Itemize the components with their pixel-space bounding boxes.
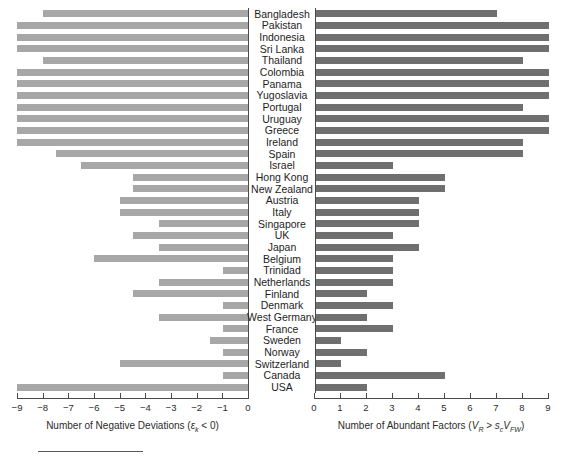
left-bar (56, 150, 249, 157)
category-label: Ireland (249, 136, 315, 148)
left-bar-row (0, 218, 249, 230)
right-bar-row (315, 358, 567, 370)
right-bar-row (315, 335, 567, 347)
right-bar-row (315, 300, 567, 312)
chart-panels: BangladeshPakistanIndonesiaSri LankaThai… (0, 8, 567, 393)
category-label: USA (249, 382, 315, 394)
left-bar-row (0, 55, 249, 67)
category-label: Italy (249, 206, 315, 218)
left-bar (210, 337, 249, 344)
right-bar-row (315, 66, 567, 78)
right-bar (315, 104, 523, 111)
category-label: Pakistan (249, 20, 315, 32)
axis-tick (120, 393, 121, 399)
left-bar (17, 45, 249, 52)
axis-tick-label: −6 (89, 402, 100, 413)
left-bar-row (0, 323, 249, 335)
right-bar (315, 69, 549, 76)
axis-tick-label: −1 (217, 402, 228, 413)
left-bar (223, 302, 249, 309)
left-bar-row (0, 78, 249, 90)
right-x-axis: 0123456789 Number of Abundant Factors (V… (314, 393, 548, 459)
axis-tick-label: 7 (493, 402, 498, 413)
right-bar (315, 92, 549, 99)
right-axis-vfw-sub: FW (510, 426, 521, 433)
axis-tick-label: 9 (545, 402, 550, 413)
right-bar-row (315, 20, 567, 32)
left-bar (17, 127, 249, 134)
right-bar-row (315, 90, 567, 102)
axis-tick-label: 0 (245, 402, 250, 413)
axis-tick-label: 4 (415, 402, 420, 413)
right-bar (315, 185, 445, 192)
right-bar-row (315, 160, 567, 172)
left-bar-row (0, 66, 249, 78)
right-axis-line (314, 398, 548, 399)
right-bar (315, 22, 549, 29)
footnote-rule (38, 451, 143, 452)
right-axis-gt: > (483, 420, 494, 431)
right-bar-row (315, 171, 567, 183)
right-bar (315, 209, 419, 216)
category-label: Austria (249, 195, 315, 207)
axis-tick (470, 393, 471, 399)
left-bar (43, 10, 249, 17)
right-bar (315, 290, 367, 297)
right-bar (315, 57, 523, 64)
left-bar (120, 209, 249, 216)
left-bar-row (0, 113, 249, 125)
axis-tick-label: 0 (311, 402, 316, 413)
category-label: Belgium (249, 253, 315, 265)
right-bar (315, 80, 549, 87)
right-bar (315, 115, 549, 122)
right-axis-vfw: V (503, 420, 510, 431)
left-bar (120, 197, 249, 204)
right-bar-row (315, 55, 567, 67)
right-bar (315, 279, 393, 286)
axis-tick (340, 393, 341, 399)
right-bar-row (315, 311, 567, 323)
category-label: Japan (249, 241, 315, 253)
axis-tick (314, 393, 315, 399)
left-bar-row (0, 253, 249, 265)
right-panel (315, 8, 567, 393)
category-label: Switzerland (249, 358, 315, 370)
axis-tick-label: −2 (191, 402, 202, 413)
right-bar-row (315, 136, 567, 148)
axis-tick-label: −8 (37, 402, 48, 413)
left-bar-row (0, 382, 249, 394)
left-bar-row (0, 160, 249, 172)
left-bar (159, 220, 249, 227)
category-label: Bangladesh (249, 8, 315, 20)
axis-tick-label: −9 (12, 402, 23, 413)
left-bar-row (0, 171, 249, 183)
right-bar (315, 232, 393, 239)
right-bar (315, 255, 393, 262)
category-label-column: BangladeshPakistanIndonesiaSri LankaThai… (249, 8, 315, 393)
left-bar (159, 314, 249, 321)
left-bar-row (0, 300, 249, 312)
right-axis-title-suffix: ) (521, 420, 524, 431)
right-bar (315, 337, 341, 344)
category-label: Greece (249, 125, 315, 137)
category-label: Sri Lanka (249, 43, 315, 55)
axis-tick (496, 393, 497, 399)
right-bar (315, 174, 445, 181)
left-bar (81, 162, 249, 169)
right-bar-row (315, 370, 567, 382)
left-bar-row (0, 183, 249, 195)
left-bar-row (0, 265, 249, 277)
axis-tick-label: 8 (519, 402, 524, 413)
right-bar (315, 45, 549, 52)
left-bar-row (0, 230, 249, 242)
axis-tick (548, 393, 549, 399)
left-bar (94, 255, 249, 262)
left-bar-row (0, 206, 249, 218)
axis-tick-label: 3 (389, 402, 394, 413)
left-bar-row (0, 8, 249, 20)
right-bar-row (315, 288, 567, 300)
axis-tick (145, 393, 146, 399)
left-bar (17, 139, 249, 146)
left-bar-row (0, 148, 249, 160)
left-axis-line (17, 398, 248, 399)
